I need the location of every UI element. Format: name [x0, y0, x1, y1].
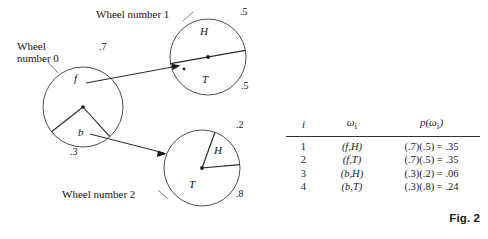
table-header-omega: ωi	[321, 116, 383, 137]
wheel-1-caption-leader	[183, 12, 193, 21]
outcome-probability-table: i ωi p(ωi) 1 (f,H) (.7)(.5) = .35 2 (f,T…	[286, 116, 480, 193]
row-2-index: 2	[286, 153, 321, 166]
row-2-outcome: (f,T)	[321, 153, 383, 166]
table-row: 4 (b,T) (.3)(.8) = .24	[286, 180, 480, 193]
wheel-2-center-dot	[200, 166, 204, 170]
wheel-0-sector-f-probability: .7	[99, 41, 107, 52]
wheel-2-sector-h-probability: .2	[236, 119, 244, 130]
table-header-probability-open: p(ω	[420, 116, 437, 128]
table-header-probability: p(ωi)	[383, 116, 480, 137]
wheel-0-sector-f-letter: f	[74, 72, 77, 84]
figure-label: Fig. 2	[449, 212, 480, 224]
row-3-probability: (.3)(.2) = .06	[383, 166, 480, 179]
wheel-0-radius-b	[83, 107, 110, 137]
table-row: 1 (f,H) (.7)(.5) = .35	[286, 137, 480, 154]
wheel-0-center-dot	[81, 105, 85, 109]
wheel-2-sector-t-probability: .8	[236, 188, 244, 199]
wheel-2-radius-b	[202, 165, 240, 168]
table-header-omega-subscript: i	[355, 121, 358, 131]
table-header-index: i	[286, 116, 321, 137]
row-1-outcome: (f,H)	[321, 137, 383, 154]
table-header-probability-close: )	[439, 116, 443, 128]
row-3-index: 3	[286, 166, 321, 179]
wheel-1-pointer-dot	[183, 68, 186, 71]
wheel-2-caption: Wheel number 2	[62, 188, 135, 200]
wheel-0-caption-line1: Wheel	[17, 40, 46, 52]
wheel-1-sector-h-letter: H	[200, 25, 208, 37]
row-4-outcome: (b,T)	[321, 180, 383, 193]
row-2-probability: (.7)(.5) = .35	[383, 153, 480, 166]
table-row: 2 (f,T) (.7)(.5) = .35	[286, 153, 480, 166]
row-4-index: 4	[286, 180, 321, 193]
wheel-1-sector-t-probability: .5	[241, 80, 249, 91]
arrow-b-to-wheel-2	[90, 134, 167, 157]
wheel-0-sector-b-letter: b	[78, 126, 84, 138]
wheel-1-sector-h-probability: .5	[240, 6, 248, 17]
table-header-row: i ωi p(ωi)	[286, 116, 480, 137]
table-header-omega-symbol: ω	[347, 116, 355, 128]
wheel-1-sector-t-letter: T	[202, 73, 208, 85]
row-4-probability: (.3)(.8) = .24	[383, 180, 480, 193]
wheel-2-caption-leader	[158, 190, 168, 199]
wheel-0-sector-b-probability: .3	[70, 146, 78, 157]
wheel-1-center-dot	[206, 55, 210, 59]
table-body: 1 (f,H) (.7)(.5) = .35 2 (f,T) (.7)(.5) …	[286, 137, 480, 193]
row-1-probability: (.7)(.5) = .35	[383, 137, 480, 154]
wheel-1-caption: Wheel number 1	[96, 8, 169, 20]
arrow-f-to-wheel-1	[86, 64, 181, 83]
wheel-0-caption-line2: number 0	[17, 52, 59, 64]
table-row: 3 (b,H) (.3)(.2) = .06	[286, 166, 480, 179]
wheel-2-group	[164, 130, 240, 206]
wheel-2-sector-t-letter: T	[189, 178, 195, 190]
row-1-index: 1	[286, 137, 321, 154]
row-3-outcome: (b,H)	[321, 166, 383, 179]
wheel-2-sector-h-letter: H	[214, 144, 222, 156]
